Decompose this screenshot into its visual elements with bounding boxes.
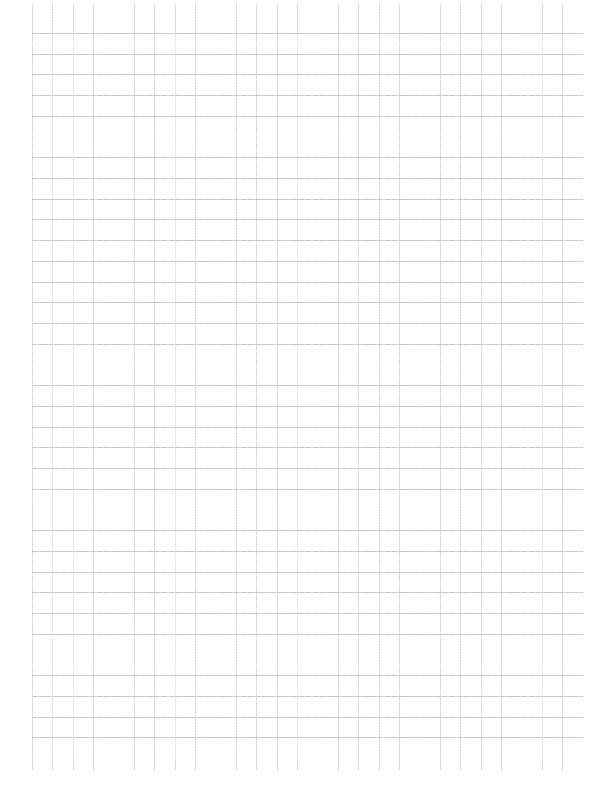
grid-paper-ruling bbox=[32, 4, 583, 770]
grid-horizontal-line-breaks bbox=[32, 33, 583, 757]
page-canvas bbox=[0, 0, 604, 799]
page-margin-left bbox=[0, 0, 32, 799]
page-margin-bottom bbox=[0, 770, 604, 799]
grid-horizontal-lines bbox=[32, 33, 583, 757]
page-margin-top bbox=[0, 0, 604, 4]
page-margin-right bbox=[583, 0, 604, 799]
